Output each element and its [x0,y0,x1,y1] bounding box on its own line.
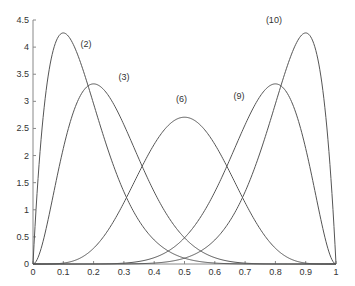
x-tick-label: 0.3 [118,267,131,277]
x-axis-ticks: 00.10.20.30.40.50.60.70.80.91 [30,261,338,277]
curve-3 [33,84,336,264]
x-tick-label: 0.9 [299,267,312,277]
x-tick-label: 0.2 [87,267,100,277]
x-tick-label: 0.4 [148,267,161,277]
x-tick-label: 0 [30,267,35,277]
y-tick-label: 0.5 [16,232,29,242]
curve-10 [33,33,336,264]
curve-2 [33,33,336,264]
y-tick-label: 4 [24,42,29,52]
x-tick-label: 0.7 [239,267,252,277]
x-tick-label: 0.5 [178,267,191,277]
curve-label: (9) [234,91,245,101]
curve-9 [33,84,336,264]
x-tick-label: 0.1 [57,267,70,277]
y-tick-label: 1.5 [16,178,29,188]
y-tick-label: 4.5 [16,15,29,25]
y-tick-label: 1 [24,205,29,215]
beta-density-chart: 00.10.20.30.40.50.60.70.80.91 00.511.522… [0,0,355,286]
curve-6 [33,117,336,264]
curve-labels: (2)(3)(6)(9)(10) [81,15,282,104]
y-tick-label: 3 [24,96,29,106]
y-tick-label: 2 [24,151,29,161]
y-tick-label: 2.5 [16,123,29,133]
curves [33,33,336,264]
x-tick-label: 1 [333,267,338,277]
curve-label: (2) [81,39,92,49]
y-tick-label: 3.5 [16,69,29,79]
curve-label: (6) [176,94,187,104]
curve-label: (10) [266,15,282,25]
x-tick-label: 0.8 [269,267,282,277]
y-tick-label: 0 [24,259,29,269]
x-tick-label: 0.6 [209,267,222,277]
curve-label: (3) [118,72,129,82]
